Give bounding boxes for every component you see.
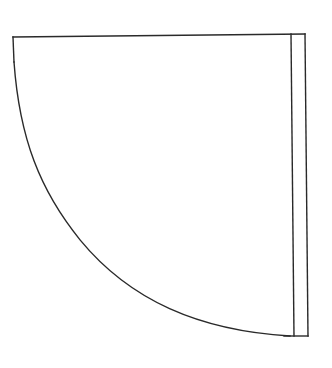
door-swing-diagram: [0, 0, 332, 368]
door-leaf-outer-line: [305, 34, 308, 336]
door-frame-top-edge: [13, 34, 305, 37]
door-frame-left-edge: [13, 37, 14, 62]
door-leaf-inner-line: [291, 34, 294, 336]
door-swing-arc: [14, 62, 290, 336]
